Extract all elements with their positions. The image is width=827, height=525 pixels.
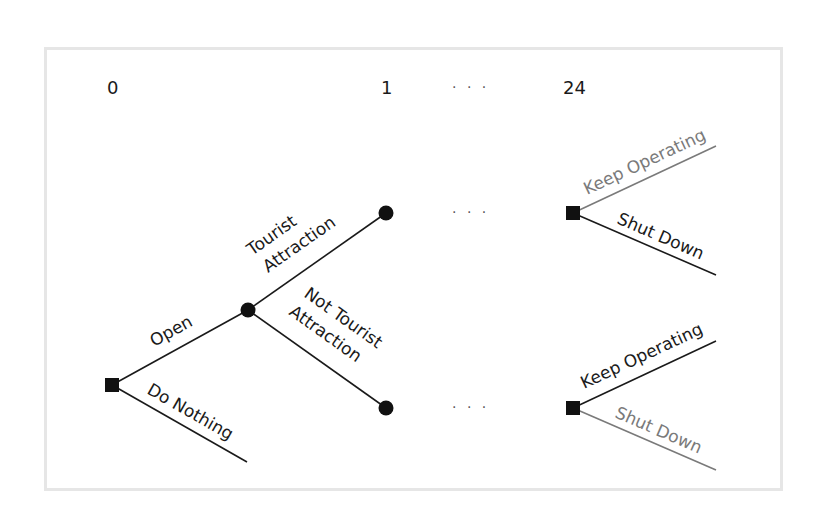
chance-node-not-tourist	[379, 401, 394, 416]
label-upper-keep-operating: Keep Operating	[580, 125, 708, 199]
chance-node-tourist	[379, 206, 394, 221]
decision-node-upper	[566, 206, 580, 220]
chance-node-open	[241, 303, 256, 318]
label-open: Open	[146, 311, 195, 350]
decision-node-lower	[566, 401, 580, 415]
stage-ellipsis: · · ·	[452, 79, 489, 95]
stage-label-24: 24	[563, 77, 586, 98]
ellipsis-lower: · · ·	[452, 399, 489, 415]
decision-tree: 0 1 · · · 24 · · · · · · Open Do Nothing…	[0, 0, 827, 525]
stage-label-1: 1	[381, 77, 392, 98]
decision-node-root	[105, 378, 119, 392]
label-lower-shut-down: Shut Down	[612, 402, 705, 457]
ellipsis-upper: · · ·	[452, 204, 489, 220]
label-upper-shut-down: Shut Down	[614, 208, 707, 263]
stage-label-0: 0	[107, 77, 118, 98]
